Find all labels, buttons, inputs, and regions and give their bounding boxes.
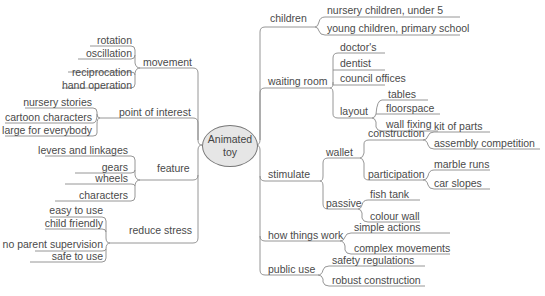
leaf-characters[interactable]: characters <box>60 189 128 201</box>
leaf-safety-regulations[interactable]: safety regulations <box>332 254 414 266</box>
leaf-floorspace[interactable]: floorspace <box>386 102 434 114</box>
node-reduce-stress[interactable]: reduce stress <box>129 224 192 236</box>
leaf-easy-to-use[interactable]: easy to use <box>40 204 103 216</box>
node-construction[interactable]: construction <box>368 127 425 139</box>
leaf-doctors[interactable]: doctor's <box>340 41 376 53</box>
leaf-rotation[interactable]: rotation <box>90 34 132 46</box>
leaf-young-children[interactable]: young children, primary school <box>327 22 469 34</box>
central-node-label-line2: toy <box>223 146 237 158</box>
leaf-simple-actions[interactable]: simple actions <box>354 221 421 233</box>
leaf-levers-and-linkages[interactable]: levers and linkages <box>30 144 128 156</box>
node-passive[interactable]: passive <box>326 197 362 209</box>
leaf-council-offices[interactable]: council offices <box>340 72 406 84</box>
node-waiting-room[interactable]: waiting room <box>268 75 328 87</box>
leaf-nursery-children[interactable]: nursery children, under 5 <box>327 4 443 16</box>
node-public-use[interactable]: public use <box>268 263 315 275</box>
leaf-marble-runs[interactable]: marble runs <box>434 158 489 170</box>
leaf-large-for-everybody[interactable]: large for everybody <box>0 124 92 136</box>
leaf-child-friendly[interactable]: child friendly <box>30 217 103 229</box>
leaf-robust-construction[interactable]: robust construction <box>332 274 421 286</box>
leaf-reciprocation[interactable]: reciprocation <box>55 66 132 78</box>
node-layout[interactable]: layout <box>340 105 368 117</box>
central-node[interactable]: Animated toy <box>202 125 258 167</box>
leaf-car-slopes[interactable]: car slopes <box>434 177 482 189</box>
node-stimulate[interactable]: stimulate <box>268 168 310 180</box>
central-node-label-line1: Animated <box>208 133 252 145</box>
leaf-assembly-competition[interactable]: assembly competition <box>434 137 535 149</box>
leaf-dentist[interactable]: dentist <box>340 57 371 69</box>
node-children[interactable]: children <box>270 12 307 24</box>
node-movement[interactable]: movement <box>143 56 192 68</box>
leaf-nursery-stories[interactable]: nursery stories <box>10 96 92 108</box>
leaf-wheels[interactable]: wheels <box>70 172 128 184</box>
node-how-things-work[interactable]: how things work <box>268 229 343 241</box>
mind-map: Animated toy movement rotation oscillati… <box>0 0 545 296</box>
leaf-tables[interactable]: tables <box>388 88 416 100</box>
node-feature[interactable]: feature <box>157 162 190 174</box>
leaf-kit-of-parts[interactable]: kit of parts <box>434 120 482 132</box>
leaf-complex-movements[interactable]: complex movements <box>354 242 450 254</box>
node-point-of-interest[interactable]: point of interest <box>119 106 191 118</box>
leaf-oscillation[interactable]: oscillation <box>70 47 132 59</box>
leaf-safe-to-use[interactable]: safe to use <box>40 250 103 262</box>
leaf-cartoon-characters[interactable]: cartoon characters <box>0 111 92 123</box>
leaf-no-parent-supervision[interactable]: no parent supervision <box>0 238 103 250</box>
node-wallet[interactable]: wallet <box>326 146 353 158</box>
leaf-fish-tank[interactable]: fish tank <box>370 188 409 200</box>
node-participation[interactable]: participation <box>368 168 425 180</box>
leaf-hand-operation[interactable]: hand operation <box>45 79 132 91</box>
